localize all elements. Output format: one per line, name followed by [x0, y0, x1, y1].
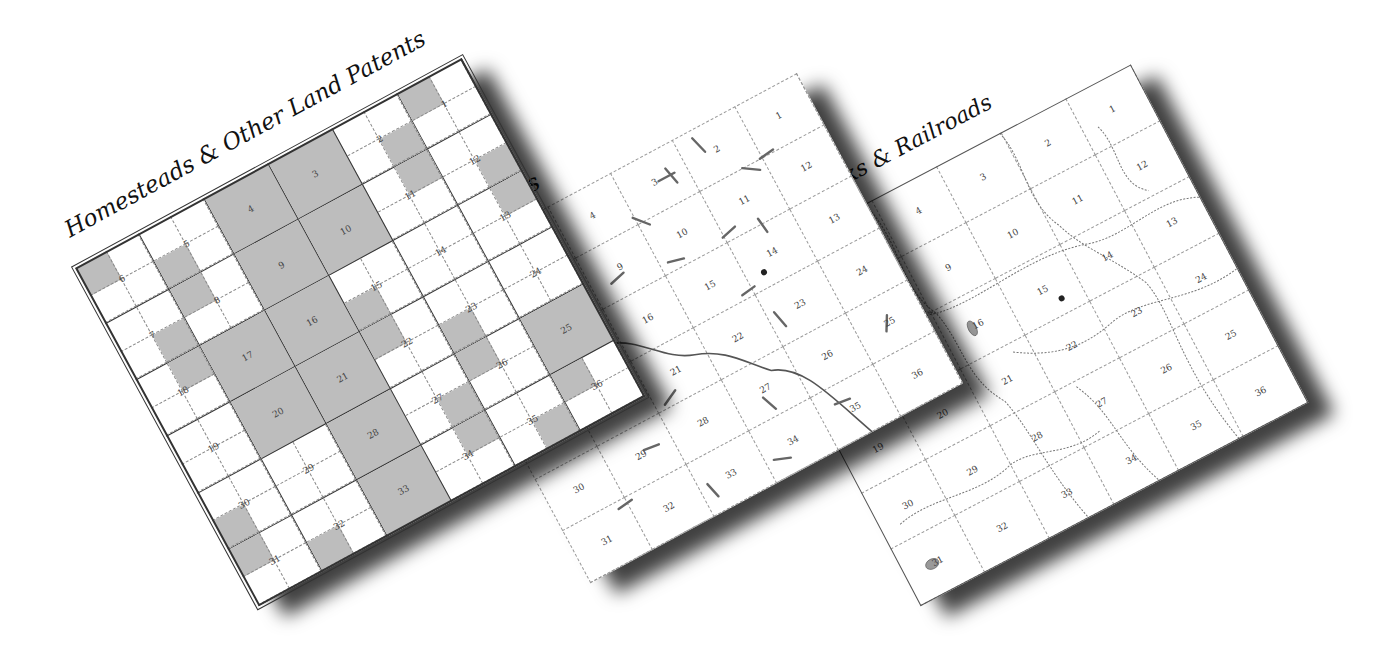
- section-number: 17: [240, 349, 255, 363]
- section-number: 20: [271, 406, 286, 420]
- section-number: 16: [305, 314, 320, 328]
- section-number: 3: [310, 168, 320, 180]
- section-number: 28: [366, 427, 381, 441]
- section-number: 21: [335, 371, 350, 385]
- section-number: 10: [338, 223, 353, 237]
- section-number: 9: [276, 259, 286, 271]
- section-number: 25: [559, 322, 574, 336]
- section-number: 4: [246, 203, 256, 215]
- section-number: 33: [396, 483, 411, 497]
